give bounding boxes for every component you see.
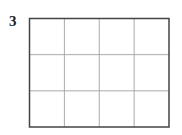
rectangle-grid [0,0,182,135]
